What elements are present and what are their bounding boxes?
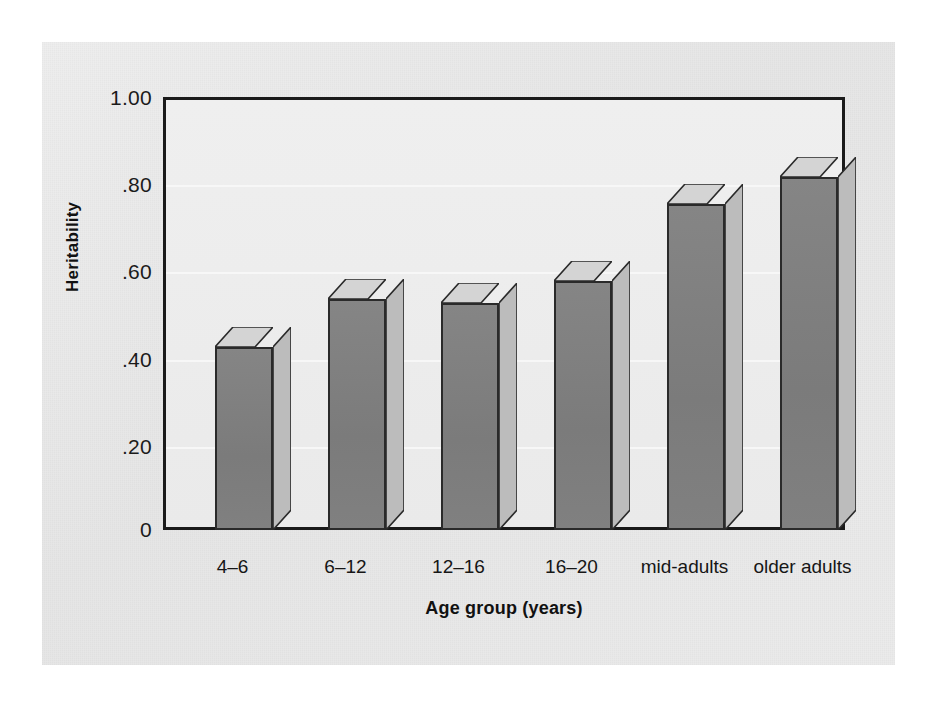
- bar-older-adults[interactable]: [780, 177, 838, 530]
- y-tick-label-0.20: .20: [122, 435, 152, 459]
- bar-front-face-6-12: [328, 299, 386, 530]
- y-tick-label-0.60: .60: [122, 260, 152, 284]
- bar-16-20[interactable]: [554, 281, 612, 530]
- figure-page: 1.00 .80 .60 .40 .20 0 Heritability: [0, 0, 952, 716]
- x-tick-label-older-adults: older adults: [740, 556, 865, 578]
- x-tick-label-mid-adults: mid-adults: [627, 556, 742, 578]
- bar-mid-adults[interactable]: [667, 204, 725, 530]
- bar-side-face-6-12: [386, 279, 404, 530]
- bar-top-face-4-6: [215, 327, 273, 347]
- bar-front-face-16-20: [554, 281, 612, 530]
- y-tick-label-1.00: 1.00: [110, 86, 152, 110]
- y-tick-label-0: 0: [140, 518, 152, 542]
- bar-top-face-16-20: [554, 261, 612, 281]
- x-tick-label-12-16: 12–16: [401, 556, 516, 578]
- bar-top-face-6-12: [328, 279, 386, 299]
- bar-side-face-12-16: [499, 283, 517, 530]
- y-tick-label-0.40: .40: [122, 348, 152, 372]
- bar-front-face-4-6: [215, 347, 273, 530]
- bar-front-face-mid-adults: [667, 204, 725, 530]
- bar-top-face-12-16: [441, 283, 499, 303]
- y-tick-label-0.80: .80: [122, 173, 152, 197]
- bar-side-face-older-adults: [838, 157, 856, 530]
- bar-6-12[interactable]: [328, 299, 386, 530]
- bar-side-face-16-20: [612, 261, 630, 530]
- x-axis-title: Age group (years): [163, 598, 845, 619]
- bar-front-face-older-adults: [780, 177, 838, 530]
- y-axis-tick-labels: 1.00 .80 .60 .40 .20 0: [40, 0, 152, 716]
- bar-top-face-mid-adults: [667, 184, 725, 204]
- bar-top-face-older-adults: [780, 157, 838, 177]
- bar-12-16[interactable]: [441, 303, 499, 530]
- bar-4-6[interactable]: [215, 347, 273, 530]
- bar-side-face-4-6: [273, 327, 291, 530]
- bar-front-face-12-16: [441, 303, 499, 530]
- x-tick-label-4-6: 4–6: [175, 556, 290, 578]
- x-tick-label-16-20: 16–20: [514, 556, 629, 578]
- bar-series: [163, 97, 845, 550]
- bar-side-face-mid-adults: [725, 184, 743, 530]
- y-axis-title: Heritability: [63, 202, 83, 292]
- x-tick-label-6-12: 6–12: [288, 556, 403, 578]
